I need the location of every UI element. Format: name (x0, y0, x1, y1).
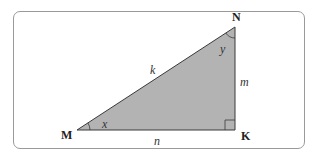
angle-label-x: x (101, 117, 108, 131)
side-label-m: m (240, 75, 249, 89)
vertex-label-k: K (241, 129, 251, 143)
vertex-label-n: N (232, 10, 241, 24)
angle-label-y: y (219, 42, 226, 56)
triangle-diagram: N M K k m n x y (0, 0, 317, 160)
side-label-n: n (154, 134, 160, 148)
triangle-mnk (77, 27, 235, 130)
vertex-label-m: M (61, 128, 72, 142)
side-label-k: k (150, 63, 156, 77)
